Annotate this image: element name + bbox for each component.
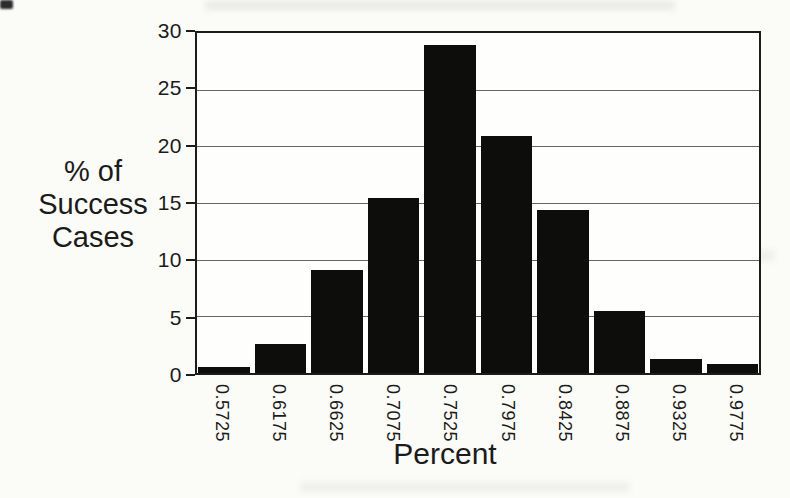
x-axis-title: Percent <box>195 437 695 471</box>
bar <box>198 367 250 373</box>
plot-area <box>195 31 761 375</box>
y-tick-label: 0 <box>170 363 182 387</box>
bar <box>707 364 759 373</box>
x-tick-label: 0.6625 <box>325 384 346 442</box>
x-label-cell: 0.9775 <box>709 379 761 457</box>
x-tick-label: 0.5725 <box>211 384 232 442</box>
scanned-page: % of Success Cases 051015202530 0.57250.… <box>0 0 790 498</box>
bar <box>594 311 646 373</box>
bar <box>650 359 702 373</box>
y-tick-mark <box>186 374 195 376</box>
x-tick-label: 0.9775 <box>724 384 745 442</box>
y-tick-label: 5 <box>170 306 182 330</box>
y-tick-mark <box>186 30 195 32</box>
scan-artifact <box>0 0 13 9</box>
y-tick-mark <box>186 317 195 319</box>
y-axis: 051015202530 <box>0 31 195 375</box>
bar <box>368 198 420 373</box>
bars-container <box>198 33 758 373</box>
y-tick-mark <box>186 87 195 89</box>
x-tick-label: 0.6175 <box>268 384 289 442</box>
y-tick-label: 20 <box>158 134 182 158</box>
y-tick-label: 10 <box>158 248 182 272</box>
x-tick-label: 0.7975 <box>496 384 517 442</box>
y-tick-mark <box>186 145 195 147</box>
bar <box>255 344 307 373</box>
y-tick-label: 25 <box>158 76 182 100</box>
bar <box>424 45 476 373</box>
bar <box>481 136 533 373</box>
x-tick-label: 0.8425 <box>553 384 574 442</box>
x-tick-label: 0.9325 <box>667 384 688 442</box>
y-tick-label: 15 <box>158 191 182 215</box>
bar <box>537 210 589 373</box>
y-tick-label: 30 <box>158 19 182 43</box>
y-tick-mark <box>186 259 195 261</box>
bar <box>311 270 363 373</box>
y-tick-mark <box>186 202 195 204</box>
x-tick-label: 0.8875 <box>610 384 631 442</box>
scan-bleedthrough <box>300 482 630 492</box>
x-tick-label: 0.7075 <box>382 384 403 442</box>
x-tick-label: 0.7525 <box>439 384 460 442</box>
scan-bleedthrough <box>205 1 675 10</box>
